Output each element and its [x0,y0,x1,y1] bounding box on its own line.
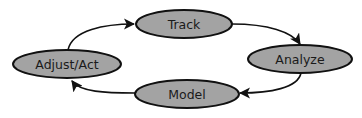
node-track: Track [136,10,232,38]
node-adjust-act: Adjust/Act [13,50,121,78]
cycle-diagram: Track Analyze Model Adjust/Act [0,0,362,118]
node-model-label: Model [168,87,206,102]
node-analyze: Analyze [248,45,352,73]
edge-track-to-analyze [232,24,300,44]
edge-analyze-to-model [240,73,301,93]
edge-model-to-adjust [72,81,135,93]
node-adjust-act-label: Adjust/Act [35,57,98,72]
node-model: Model [135,80,239,108]
node-track-label: Track [167,17,201,32]
edge-adjust-to-track [68,24,134,50]
node-analyze-label: Analyze [275,52,325,67]
